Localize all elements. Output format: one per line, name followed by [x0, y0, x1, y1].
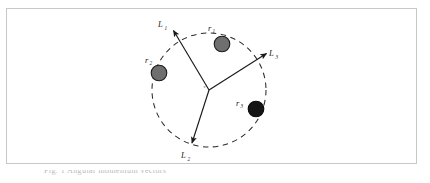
particle-r2-dot [151, 65, 167, 81]
vector-L3-label: L [268, 48, 274, 58]
vector-L1-subscript: 1 [164, 25, 167, 31]
particle-r3: r 3 [236, 98, 264, 117]
vector-L1-label: L [157, 19, 163, 29]
vector-L1: L 1 [157, 19, 209, 90]
vector-L2-label: L [180, 150, 186, 160]
particle-r1-label: r [208, 23, 212, 33]
vector-L1-shaft [174, 31, 210, 91]
particle-r1-subscript: 1 [213, 28, 216, 34]
particle-r2-label: r [145, 55, 149, 65]
particle-r1: r 1 [208, 23, 230, 52]
particle-r2-subscript: 2 [150, 60, 153, 66]
caption-strip: Fig. 1 Angular momentum vectors [0, 170, 430, 183]
vector-L3: L 3 [209, 48, 278, 90]
vector-L3-subscript: 3 [275, 54, 278, 60]
vector-L2: L 2 [180, 90, 209, 162]
vector-L3-shaft [209, 54, 267, 91]
vector-L2-subscript: 2 [187, 156, 190, 162]
vector-L2-shaft [192, 90, 209, 143]
particle-r3-dot [248, 101, 264, 117]
particle-r2: r 2 [145, 55, 167, 81]
vector-diagram: L 1 L 3 L 2 v r 1 r 2 r 3 [0, 0, 430, 183]
particle-r1-dot [214, 36, 230, 52]
particle-r3-label: r [236, 98, 240, 108]
figure-caption: Fig. 1 Angular momentum vectors [44, 170, 166, 175]
particle-r3-subscript: 3 [241, 103, 244, 109]
